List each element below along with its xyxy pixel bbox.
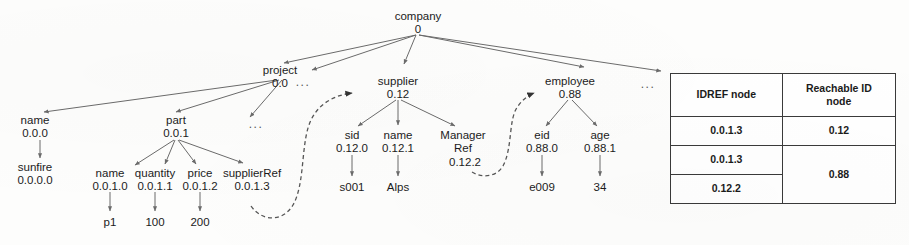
node-label-part: part bbox=[166, 114, 187, 126]
idref-edge-supplierref-to-supplier bbox=[251, 93, 352, 218]
edge-part-to-name bbox=[135, 140, 174, 165]
node-id-price: 0.0.1.2 bbox=[182, 180, 217, 192]
node-label-managerref-line1: Manager bbox=[440, 129, 486, 141]
node-value-p1: p1 bbox=[104, 216, 117, 228]
node-label-quantity: quantity bbox=[135, 167, 176, 179]
node-id-sunfire: 0.0.0.0 bbox=[17, 174, 52, 186]
idref-reachable-table: IDREF node Reachable ID node 0.0.1.3 0.1… bbox=[670, 73, 896, 204]
edge-employee-to-eid bbox=[546, 100, 568, 126]
table-cell-idref: 0.0.1.3 bbox=[671, 146, 783, 175]
node-id-employee: 0.88 bbox=[559, 88, 581, 100]
table-header-idref-node-label: IDREF node bbox=[697, 88, 757, 100]
node-value-alps: Alps bbox=[387, 181, 410, 193]
node-label-employee: employee bbox=[545, 75, 595, 87]
node-id-age: 0.88.1 bbox=[584, 142, 616, 154]
ellipsis-under-root-left: ... bbox=[296, 75, 311, 89]
node-id-eid: 0.88.0 bbox=[526, 142, 558, 154]
node-label-age: age bbox=[590, 129, 609, 141]
table-cell-reachable-merged: 0.88 bbox=[782, 146, 895, 204]
node-value-quantity-100: 100 bbox=[145, 216, 164, 228]
node-value-age-34: 34 bbox=[594, 181, 607, 193]
node-label-supplier-name: name bbox=[384, 129, 413, 141]
table-cell-idref: 0.12.2 bbox=[671, 175, 783, 204]
edge-part-to-supplierref bbox=[179, 140, 243, 163]
table-header-reachable-id-node: Reachable ID node bbox=[782, 74, 895, 117]
node-id-part: 0.0.1 bbox=[163, 127, 189, 139]
node-value-s001: s001 bbox=[340, 181, 365, 193]
table-header: IDREF node Reachable ID node bbox=[671, 74, 896, 117]
node-id-sid: 0.12.0 bbox=[336, 142, 368, 154]
edge-root-to-supplier bbox=[404, 35, 416, 64]
edge-project-to-name bbox=[44, 80, 277, 112]
node-label-part-name: name bbox=[96, 167, 125, 179]
table-header-row: IDREF node Reachable ID node bbox=[671, 74, 896, 117]
table-header-reachable-line1: Reachable ID bbox=[806, 82, 872, 94]
node-label-project: project bbox=[263, 64, 298, 76]
node-label-supplierref: supplierRef bbox=[223, 167, 282, 179]
node-id-supplier: 0.12 bbox=[387, 88, 409, 100]
node-label-company: company bbox=[395, 10, 442, 22]
edge-part-to-quantity bbox=[165, 140, 175, 164]
node-label-price: price bbox=[188, 167, 213, 179]
node-label-sunfire: sunfire bbox=[18, 161, 53, 173]
node-id-company: 0 bbox=[415, 23, 421, 35]
edge-project-to-part bbox=[176, 80, 279, 112]
node-value-price-200: 200 bbox=[190, 216, 209, 228]
table-row: 0.0.1.3 0.12 bbox=[671, 117, 896, 146]
idref-table: IDREF node Reachable ID node 0.0.1.3 0.1… bbox=[670, 73, 896, 204]
table-row: 0.0.1.3 0.88 bbox=[671, 146, 896, 175]
edge-root-to-ellipsis-left bbox=[312, 35, 416, 70]
table-cell-reachable: 0.12 bbox=[782, 117, 895, 146]
table-cell-idref: 0.0.1.3 bbox=[671, 117, 783, 146]
node-label-managerref-line2: Ref bbox=[454, 142, 473, 154]
edge-part-to-price bbox=[178, 140, 196, 164]
edge-supplier-to-sid bbox=[358, 100, 396, 126]
table-header-reachable-line2: node bbox=[826, 95, 851, 107]
edge-supplier-to-managerref bbox=[401, 100, 455, 126]
figure-canvas: company 0 project 0.0 supplier 0.12 empl… bbox=[0, 0, 909, 245]
node-id-project: 0.0 bbox=[272, 77, 288, 89]
table-header-idref-node: IDREF node bbox=[671, 74, 783, 117]
edge-root-to-project bbox=[284, 35, 416, 63]
edge-root-to-employee bbox=[419, 35, 584, 67]
node-id-project-name: 0.0.0 bbox=[22, 127, 48, 139]
node-label-sid: sid bbox=[345, 129, 360, 141]
node-id-part-name: 0.0.1.0 bbox=[92, 180, 127, 192]
node-id-managerref: 0.12.2 bbox=[449, 156, 481, 168]
node-label-supplier: supplier bbox=[378, 75, 418, 87]
node-label-eid: eid bbox=[534, 129, 549, 141]
ellipsis-under-root-right: ... bbox=[641, 77, 656, 91]
node-id-supplier-name: 0.12.1 bbox=[382, 142, 414, 154]
table-body: 0.0.1.3 0.12 0.0.1.3 0.88 0.12.2 bbox=[671, 117, 896, 204]
ellipsis-under-project: ... bbox=[249, 117, 264, 131]
edge-root-to-ellipsis-right bbox=[419, 35, 661, 71]
node-id-quantity: 0.0.1.1 bbox=[137, 180, 172, 192]
node-id-supplierref: 0.0.1.3 bbox=[234, 180, 269, 192]
node-label-project-name: name bbox=[21, 114, 50, 126]
node-value-e009: e009 bbox=[529, 181, 555, 193]
edge-employee-to-age bbox=[572, 100, 597, 126]
